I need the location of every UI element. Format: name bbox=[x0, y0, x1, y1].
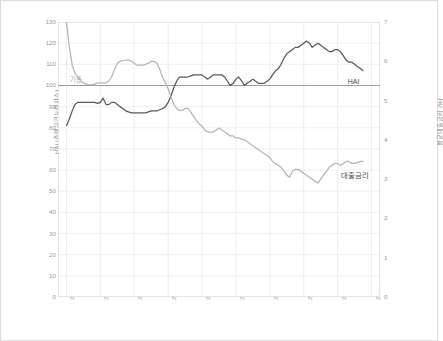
gridlines bbox=[58, 22, 380, 297]
y-tick-left-90: 90 bbox=[28, 104, 56, 110]
y-tick-right-0: 0 bbox=[384, 294, 408, 300]
y-axis-right-title: 평균대출금리 (%) bbox=[437, 62, 443, 182]
y-tick-right-3: 3 bbox=[384, 176, 408, 182]
y-tick-right-2: 2 bbox=[384, 215, 408, 221]
y-tick-left-120: 120 bbox=[28, 40, 56, 46]
y-tick-right-6: 6 bbox=[384, 58, 408, 64]
y-tick-right-5: 5 bbox=[384, 98, 408, 104]
y-tick-right-4: 4 bbox=[384, 137, 408, 143]
y-tick-left-110: 110 bbox=[28, 61, 56, 67]
source-watermark bbox=[424, 9, 436, 121]
rate-series-label: 대출금리 bbox=[341, 172, 369, 179]
y-tick-left-130: 130 bbox=[28, 19, 56, 25]
y-tick-right-1: 1 bbox=[384, 255, 408, 261]
hai-series-label: HAI bbox=[348, 78, 360, 85]
y-tick-right-7: 7 bbox=[384, 19, 408, 25]
plot-area: 기준 HAI 대출금리 bbox=[58, 22, 380, 297]
y-tick-left-80: 80 bbox=[28, 125, 56, 131]
data-series-layer bbox=[66, 22, 363, 183]
y-tick-left-0: 0 bbox=[28, 294, 56, 300]
baseline-annotation: 기준 bbox=[70, 77, 82, 83]
y-tick-left-10: 10 bbox=[28, 273, 56, 279]
y-tick-left-40: 40 bbox=[28, 209, 56, 215]
y-tick-left-50: 50 bbox=[28, 188, 56, 194]
y-tick-left-20: 20 bbox=[28, 252, 56, 258]
y-tick-left-60: 60 bbox=[28, 167, 56, 173]
y-tick-left-30: 30 bbox=[28, 231, 56, 237]
chart-svg bbox=[58, 22, 380, 297]
y-tick-left-70: 70 bbox=[28, 146, 56, 152]
y-tick-left-100: 100 bbox=[28, 82, 56, 88]
